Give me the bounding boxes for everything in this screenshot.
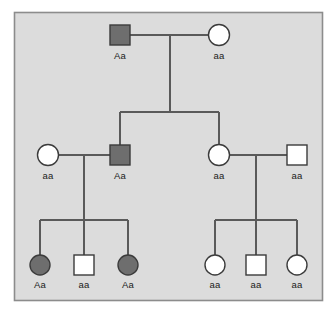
- individual-III-6-genotype-label: aa: [291, 279, 303, 290]
- individual-I-1-affected-male-square[interactable]: [110, 25, 130, 45]
- individual-III-4-unaffected-female-circle[interactable]: [205, 255, 225, 275]
- individual-II-4-genotype-label: aa: [291, 170, 303, 181]
- individual-II-1-genotype-label: aa: [42, 170, 54, 181]
- individual-III-5-unaffected-male-square[interactable]: [246, 255, 266, 275]
- individual-II-4-unaffected-male-square[interactable]: [287, 145, 307, 165]
- individual-III-3-affected-female-circle[interactable]: [118, 255, 138, 275]
- pedigree-canvas: Aa aa aa Aa aa aa Aa aa Aa aa aa: [0, 0, 334, 315]
- individual-II-1-unaffected-female-circle[interactable]: [38, 145, 59, 166]
- individual-I-2-unaffected-female-circle[interactable]: [209, 25, 230, 46]
- individual-III-6-unaffected-female-circle[interactable]: [287, 255, 307, 275]
- individual-III-2-genotype-label: aa: [78, 279, 90, 290]
- individual-II-3-genotype-label: aa: [213, 170, 225, 181]
- individual-III-3-genotype-label: Aa: [122, 279, 135, 290]
- individual-III-5-genotype-label: aa: [250, 279, 262, 290]
- pedigree-diagram: Aa aa aa Aa aa aa Aa aa Aa aa aa: [0, 0, 334, 315]
- individual-III-4-genotype-label: aa: [209, 279, 221, 290]
- individual-II-2-affected-male-square[interactable]: [110, 145, 130, 165]
- individual-III-1-affected-female-circle[interactable]: [30, 255, 50, 275]
- individual-I-2-genotype-label: aa: [213, 50, 225, 61]
- diagram-frame: [15, 13, 323, 301]
- individual-II-2-genotype-label: Aa: [114, 170, 127, 181]
- individual-I-1-genotype-label: Aa: [114, 50, 127, 61]
- individual-III-1-genotype-label: Aa: [34, 279, 47, 290]
- individual-III-2-unaffected-male-square[interactable]: [74, 255, 94, 275]
- individual-II-3-unaffected-female-circle[interactable]: [209, 145, 230, 166]
